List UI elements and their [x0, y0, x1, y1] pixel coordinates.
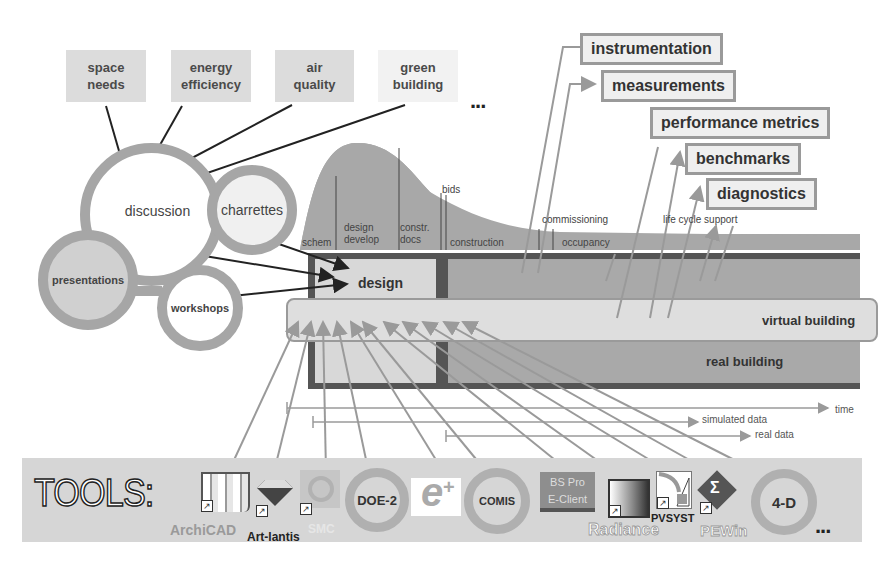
sigma-glyph: Σ — [710, 479, 720, 497]
shortcut-arrow-icon: ↗ — [609, 505, 621, 517]
phase-line: constr. — [400, 222, 429, 233]
charrettes-label: charrettes — [221, 202, 283, 218]
topic-line: quality — [294, 76, 336, 93]
phase-constr-docs: constr.docs — [400, 222, 429, 246]
phase-design-develop: designdevelop — [344, 222, 379, 246]
4d-ring-icon[interactable]: 4-D — [751, 469, 817, 535]
artlantis-diamond-icon[interactable] — [255, 478, 295, 508]
phase-bids: bids — [442, 184, 460, 196]
phase-line: design — [344, 222, 373, 233]
charrettes-circle: charrettes — [207, 165, 297, 255]
shortcut-arrow-icon: ↗ — [700, 502, 712, 514]
tool-doe2-label: DOE-2 — [357, 493, 397, 508]
doe2-ring-icon[interactable]: DOE-2 — [345, 468, 409, 532]
design-label: design — [358, 275, 403, 291]
tool-4d-label: 4-D — [772, 494, 796, 511]
shortcut-arrow-icon: ↗ — [201, 500, 213, 512]
tools-heading: TOOLS: — [34, 472, 153, 515]
topics-ellipsis: ... — [470, 88, 485, 114]
tool-radiance-label: Radiance — [588, 521, 659, 539]
presentations-label: presentations — [52, 274, 124, 286]
tool-artlantis-label: Art-lantis — [247, 530, 300, 544]
tool-archicad-label: ArchiCAD — [170, 522, 236, 538]
tool-pvsyst-label: PVSYST — [651, 512, 694, 524]
topic-green-building: greenbuilding — [378, 50, 458, 102]
topic-line: efficiency — [181, 76, 241, 93]
real-building-label: real building — [706, 354, 783, 369]
bspro-icon[interactable]: BS ProE-Client — [540, 472, 595, 512]
virtual-building-label: virtual building — [762, 313, 855, 328]
shortcut-arrow-icon: ↗ — [657, 497, 669, 509]
topic-line: needs — [87, 76, 125, 93]
topic-air-quality: airquality — [275, 50, 354, 102]
simulated-data-label: simulated data — [702, 414, 767, 425]
output-diagnostics: diagnostics — [706, 178, 817, 210]
topic-space-needs: spaceneeds — [66, 50, 146, 102]
phase-construction: construction — [450, 237, 504, 249]
shortcut-arrow-icon: ↗ — [256, 505, 268, 517]
phase-commissioning: commissioning — [542, 214, 608, 226]
discussion-label: discussion — [125, 203, 190, 219]
bspro-line: E-Client — [540, 491, 595, 508]
topic-line: energy — [181, 59, 241, 76]
topic-line: building — [393, 76, 444, 93]
tools-ellipsis: ... — [815, 513, 830, 539]
topic-line: air — [294, 59, 336, 76]
output-measurements: measurements — [601, 70, 736, 102]
real-data-label: real data — [755, 429, 794, 440]
presentations-circle: presentations — [38, 230, 138, 330]
shortcut-arrow-icon: ↗ — [300, 503, 312, 515]
tool-smc-label: SMC — [308, 522, 335, 536]
energyplus-e-icon[interactable]: e+ — [411, 478, 461, 516]
phase-line: develop — [344, 234, 379, 245]
time-label: time — [835, 404, 854, 415]
circle-connector — [132, 286, 162, 296]
output-benchmarks: benchmarks — [685, 143, 801, 175]
phase-occupancy: occupancy — [562, 237, 610, 249]
workshops-label: workshops — [171, 302, 229, 314]
workshops-circle: workshops — [157, 265, 243, 351]
phase-life-cycle-support: life cycle support — [663, 214, 737, 226]
topic-energy-efficiency: energyefficiency — [171, 50, 251, 102]
bspro-line: BS Pro — [540, 474, 595, 491]
phase-line: docs — [400, 234, 421, 245]
phase-schem: schem — [302, 237, 331, 249]
topic-line: green — [393, 59, 444, 76]
output-instrumentation: instrumentation — [580, 33, 723, 65]
output-performance-metrics: performance metrics — [650, 107, 830, 139]
tool-comis-label: COMIS — [479, 495, 515, 507]
topic-line: space — [87, 59, 125, 76]
comis-ring-icon[interactable]: COMIS — [464, 468, 530, 534]
tool-pewin-label: PEWin — [700, 522, 747, 539]
